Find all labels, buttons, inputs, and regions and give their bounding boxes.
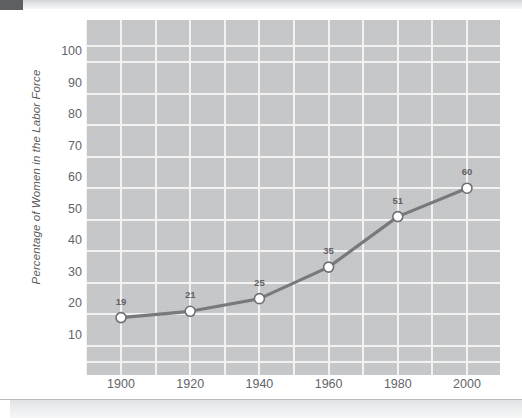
data-point-label: 25 [239, 277, 279, 288]
x-tick-label: 1940 [229, 377, 289, 391]
data-point-label: 35 [309, 245, 349, 256]
y-tick-label: 50 [36, 202, 82, 216]
y-tick-label: 90 [36, 76, 82, 90]
data-series-layer [86, 20, 500, 375]
data-marker [185, 306, 195, 316]
plot-area: 192125355160 [86, 20, 500, 375]
x-tick-label: 1980 [368, 377, 428, 391]
top-decorative-bar [0, 0, 522, 9]
data-point-label: 19 [101, 296, 141, 307]
y-tick-label: 10 [36, 328, 82, 342]
bottom-decorative-band [0, 400, 522, 418]
y-axis-tick-labels: 100908070605040302010 [26, 10, 82, 365]
x-tick-label: 1960 [299, 377, 359, 391]
y-tick-label: 70 [36, 139, 82, 153]
x-tick-label: 2000 [437, 377, 497, 391]
data-marker [254, 294, 264, 304]
data-markers [116, 183, 472, 322]
x-axis-tick-labels: 190019201940196019802000 [86, 365, 500, 395]
x-tick-label: 1900 [91, 377, 151, 391]
data-marker [462, 183, 472, 193]
data-marker [393, 212, 403, 222]
y-tick-label: 100 [36, 44, 82, 58]
page-background: Percentage of Women in the Labor Force 1… [0, 0, 522, 418]
y-tick-label: 40 [36, 233, 82, 247]
x-tick-label: 1920 [160, 377, 220, 391]
y-tick-label: 20 [36, 296, 82, 310]
y-tick-label: 60 [36, 170, 82, 184]
data-point-label: 21 [170, 289, 210, 300]
y-tick-label: 80 [36, 107, 82, 121]
y-tick-label: 30 [36, 265, 82, 279]
line-chart: Percentage of Women in the Labor Force 1… [0, 10, 522, 395]
data-point-label: 60 [447, 166, 487, 177]
top-left-corner-block [0, 0, 23, 10]
data-marker [324, 262, 334, 272]
data-marker [116, 313, 126, 323]
bottom-band-left-gap [0, 400, 10, 418]
data-point-label: 51 [378, 195, 418, 206]
